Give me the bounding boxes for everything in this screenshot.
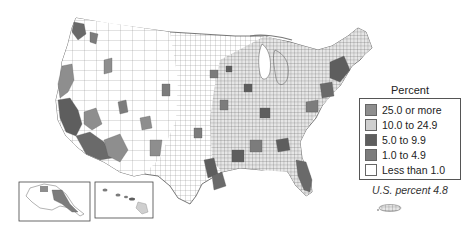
puerto-rico [377, 205, 401, 212]
legend-swatch [365, 104, 377, 116]
legend-item: 10.0 to 24.9 [365, 117, 456, 132]
hawaii-inset [95, 182, 153, 218]
legend-title: Percent [359, 84, 461, 96]
legend-box: 25.0 or more 10.0 to 24.9 5.0 to 9.9 1.0… [359, 98, 461, 180]
us-percent-note: U.S. percent 4.8 [359, 184, 461, 196]
legend-swatch [365, 134, 377, 146]
legend-item: 25.0 or more [365, 102, 456, 117]
legend-swatch [365, 149, 377, 161]
map-legend: Percent 25.0 or more 10.0 to 24.9 5.0 to… [359, 84, 461, 196]
legend-item: Less than 1.0 [365, 162, 456, 177]
legend-label: 5.0 to 9.9 [382, 134, 426, 146]
legend-item: 1.0 to 4.9 [365, 147, 456, 162]
legend-swatch [365, 119, 377, 131]
legend-item: 5.0 to 9.9 [365, 132, 456, 147]
alaska-inset [19, 182, 90, 221]
legend-label: 25.0 or more [382, 104, 442, 116]
legend-label: Less than 1.0 [382, 164, 445, 176]
legend-label: 1.0 to 4.9 [382, 149, 426, 161]
legend-label: 10.0 to 24.9 [382, 119, 437, 131]
legend-swatch [365, 164, 377, 176]
